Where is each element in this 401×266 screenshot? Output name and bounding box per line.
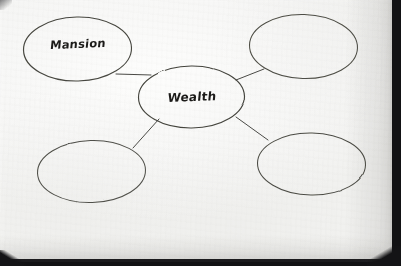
bubble-branch-bottom-right[interactable] (257, 132, 366, 196)
bubble-center-wealth[interactable] (138, 65, 245, 128)
connector-center-to-top-left (116, 74, 151, 75)
connector-center-to-top-right (236, 69, 264, 80)
bubble-branch-top-left[interactable] (23, 16, 132, 82)
concept-map-drawing (0, 0, 401, 266)
bubble-group (23, 13, 366, 204)
connector-center-to-bottom-left (133, 119, 159, 148)
bubble-branch-top-right[interactable] (249, 13, 359, 80)
bubble-branch-bottom-left[interactable] (37, 139, 147, 204)
connector-center-to-bottom-right (236, 117, 268, 140)
photo-scene: Mansion Wealth (0, 0, 401, 266)
connector-group (116, 69, 268, 148)
